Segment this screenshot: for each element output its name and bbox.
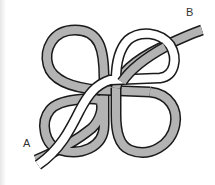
knot-diagram: .o { fill: none; stroke: #1a1a1a; stroke… <box>0 0 215 185</box>
end-label-b: B <box>186 7 193 18</box>
end-label-a: A <box>23 138 30 149</box>
